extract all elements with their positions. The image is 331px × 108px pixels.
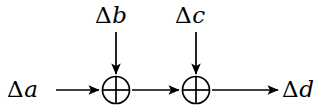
label-delta-a: Δa — [7, 78, 38, 101]
delta-symbol: Δ — [7, 76, 24, 102]
xor-differential-diagram: Δa Δb Δc Δd — [0, 0, 331, 108]
label-delta-b: Δb — [95, 4, 127, 27]
xor-gate-1 — [103, 77, 130, 104]
variable-name: c — [192, 2, 205, 28]
variable-name: b — [112, 2, 127, 28]
label-delta-c: Δc — [175, 4, 206, 27]
delta-symbol: Δ — [95, 2, 112, 28]
delta-symbol: Δ — [175, 2, 192, 28]
variable-name: a — [24, 76, 38, 102]
xor-gate-2 — [183, 77, 210, 104]
variable-name: d — [299, 76, 314, 102]
label-delta-d: Δd — [282, 78, 314, 101]
delta-symbol: Δ — [282, 76, 299, 102]
